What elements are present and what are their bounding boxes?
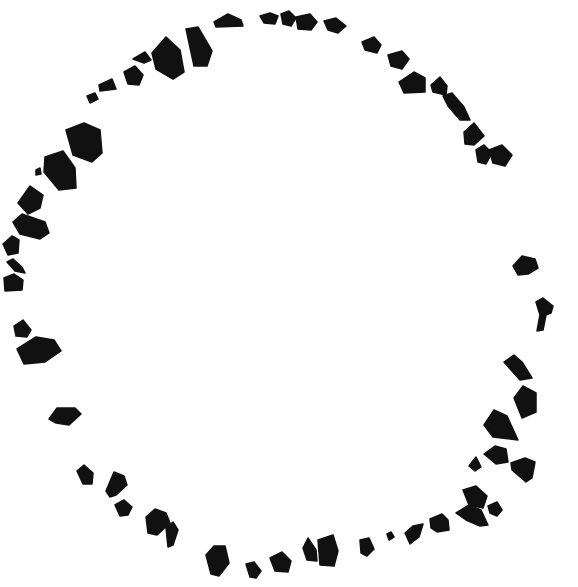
fragment-ring-image bbox=[0, 0, 578, 587]
fragment-blob bbox=[318, 535, 338, 566]
background bbox=[0, 0, 578, 587]
fragment-blob bbox=[36, 168, 41, 175]
